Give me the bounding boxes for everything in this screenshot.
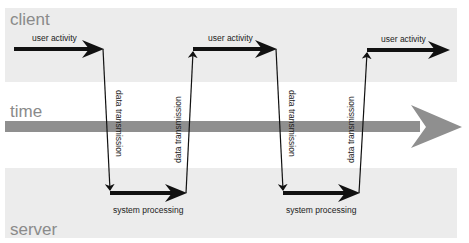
data-transmission-label: data transmission — [114, 90, 124, 157]
system-processing-label: system processing — [286, 205, 357, 215]
user-activity-label: user activity — [208, 33, 254, 43]
client-server-timing-diagram: client time server — [0, 0, 469, 243]
user-activity-label: user activity — [32, 33, 78, 43]
server-lane-label: server — [10, 220, 58, 239]
data-transmission-label: data transmission — [173, 96, 183, 163]
server-lane — [5, 168, 457, 238]
data-transmission-label: data transmission — [346, 96, 356, 163]
time-arrow-icon — [5, 105, 462, 148]
time-axis-label: time — [10, 102, 42, 121]
user-activity-label: user activity — [381, 34, 427, 44]
system-processing-label: system processing — [113, 205, 184, 215]
client-lane — [5, 8, 457, 82]
data-transmission-label: data transmission — [287, 90, 297, 157]
client-lane-label: client — [10, 10, 50, 29]
